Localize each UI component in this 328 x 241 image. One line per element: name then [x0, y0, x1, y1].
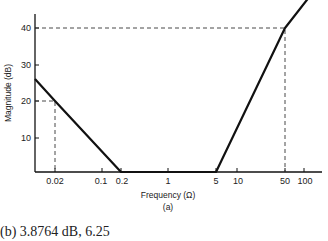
y-axis-title: Magnitude (dB) — [3, 64, 13, 122]
x-ticks: 0.02 0.1 0.2 1 5 10 50 100 — [46, 168, 312, 186]
x-tick-label: 1 — [165, 176, 170, 186]
x-axis-title: Frequency (Ω) — [141, 190, 196, 200]
magnitude-curve — [35, 0, 310, 172]
x-tick-label: 0.1 — [95, 176, 108, 186]
dashed-guides — [35, 28, 285, 172]
x-tick-label: 5 — [213, 176, 218, 186]
y-tick-label: 40 — [21, 23, 31, 33]
x-tick-label: 50 — [280, 176, 290, 186]
y-tick-label: 20 — [21, 96, 31, 106]
x-tick-label: 0.02 — [46, 176, 64, 186]
x-tick-label: 10 — [233, 176, 243, 186]
y-tick-label: 30 — [21, 60, 31, 70]
bode-magnitude-chart: 40 30 20 10 0.02 0.1 0.2 1 5 10 50 100 M… — [0, 0, 328, 241]
y-ticks: 40 30 20 10 — [21, 23, 39, 143]
x-tick-label: 0.2 — [116, 176, 129, 186]
subfigure-label: (a) — [163, 202, 174, 212]
figure-caption: (b) 3.8764 dB, 6.25 — [0, 224, 110, 240]
y-tick-label: 10 — [21, 133, 31, 143]
x-tick-label: 100 — [297, 176, 312, 186]
